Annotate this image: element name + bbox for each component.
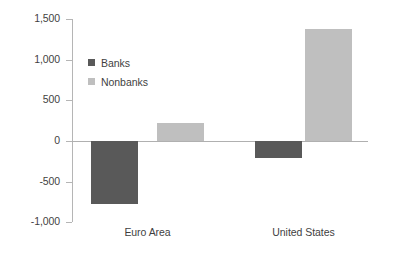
y-axis-tick [66,60,72,61]
bar-nonbanks-euro-area [157,123,204,141]
legend: Banks Nonbanks [88,53,148,91]
x-axis-label-euro-area: Euro Area [88,226,208,238]
legend-label-nonbanks: Nonbanks [101,76,148,88]
legend-label-banks: Banks [101,57,130,69]
bar-chart: 1,5001,0005000-500-1,000 Euro AreaUnited… [0,0,400,256]
bar-banks-euro-area [91,141,138,204]
legend-swatch-banks-icon [88,59,95,66]
y-axis-tick-label: 1,500 [0,12,60,24]
y-axis-tick-label: 500 [0,93,60,105]
y-axis-tick-label: 0 [0,134,60,146]
y-axis-tick [66,100,72,101]
bar-nonbanks-united-states [305,29,352,141]
y-axis-tick-label: -500 [0,175,60,187]
legend-item-nonbanks: Nonbanks [88,72,148,91]
bar-banks-united-states [255,141,302,158]
x-axis-label-united-states: United States [244,226,364,238]
y-axis-tick-label: 1,000 [0,53,60,65]
y-axis-tick [66,19,72,20]
y-axis-tick [66,222,72,223]
y-axis-line [72,19,73,222]
y-axis-tick [66,182,72,183]
legend-swatch-nonbanks-icon [88,78,95,85]
y-axis-tick-label: -1,000 [0,215,60,227]
legend-item-banks: Banks [88,53,148,72]
